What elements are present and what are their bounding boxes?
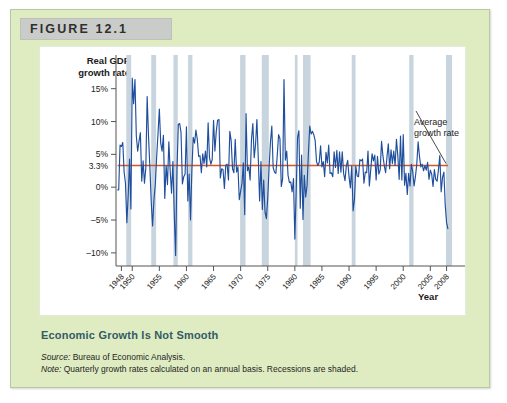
note-text: Quarterly growth rates calculated on an … xyxy=(61,364,358,374)
figure-panel: FIGURE 12.1 Real GDPgrowth rate 15%10%5%… xyxy=(10,9,490,388)
y-tick-label: –10% xyxy=(86,248,108,258)
source-line: Source: Bureau of Economic Analysis. xyxy=(41,352,358,364)
x-tick-label: 1985 xyxy=(308,272,327,292)
average-growth-rate-annotation: Average growth rate xyxy=(414,117,470,138)
y-tick-label: 3.3% xyxy=(89,161,109,171)
y-tick-label: 10% xyxy=(91,117,108,127)
x-tick-labels-group: 1948195019551960196519701975198019851990… xyxy=(107,266,451,291)
y-tick-label: 5% xyxy=(96,149,109,159)
y-tick-labels-group: 15%10%5%3.3%0%–5%–10% xyxy=(86,84,116,258)
x-tick-label: 2000 xyxy=(389,272,408,292)
figure-number-band: FIGURE 12.1 xyxy=(20,18,172,40)
recession-band xyxy=(126,55,131,266)
y-tick-label: –5% xyxy=(91,215,108,225)
source-text: Bureau of Economic Analysis. xyxy=(70,352,185,362)
recession-band xyxy=(409,55,413,266)
x-tick-label: 1980 xyxy=(281,272,300,292)
y-tick-label: 15% xyxy=(91,84,108,94)
figure-caption-title: Economic Growth Is Not Smooth xyxy=(41,329,219,341)
source-label: Source: xyxy=(41,352,70,362)
recession-band xyxy=(262,55,269,266)
note-line: Note: Quarterly growth rates calculated … xyxy=(41,364,358,376)
x-tick-label: 1965 xyxy=(199,272,218,292)
recession-band xyxy=(240,55,245,266)
recession-band xyxy=(151,55,156,266)
x-tick-label: 1995 xyxy=(362,272,381,292)
x-tick-label: 1970 xyxy=(226,272,245,292)
figure-number-label: FIGURE 12.1 xyxy=(30,22,128,36)
recession-band xyxy=(303,55,311,266)
figure-caption-source-note: Source: Bureau of Economic Analysis. Not… xyxy=(41,352,358,375)
x-tick-label: 2008 xyxy=(432,272,451,292)
x-tick-label: 2005 xyxy=(416,272,435,292)
gdp-growth-line-chart: 15%10%5%3.3%0%–5%–10% 194819501955196019… xyxy=(40,47,465,315)
x-tick-label: 1960 xyxy=(172,272,191,292)
x-tick-label: 1990 xyxy=(335,272,354,292)
x-axis-title: Year xyxy=(418,291,438,302)
x-tick-label: 1975 xyxy=(253,272,272,292)
note-label: Note: xyxy=(41,364,61,374)
recession-band xyxy=(446,55,452,266)
y-tick-label: 0% xyxy=(96,182,109,192)
recession-band xyxy=(352,55,356,266)
x-tick-label: 1955 xyxy=(145,272,164,292)
gdp-growth-series-line xyxy=(117,78,448,255)
chart-plot-card: Real GDPgrowth rate 15%10%5%3.3%0%–5%–10… xyxy=(40,47,465,315)
